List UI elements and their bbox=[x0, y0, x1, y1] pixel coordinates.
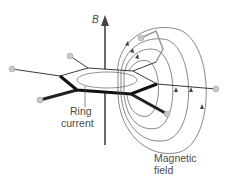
ring-current-label-line2: current bbox=[61, 117, 94, 129]
magnetic-field-label-line1: Magnetic bbox=[154, 152, 197, 164]
ring-current-diagram: B Ring current Magnetic field bbox=[0, 0, 227, 182]
b-axis-label: B bbox=[92, 14, 99, 26]
arrow-up-icon bbox=[101, 15, 109, 26]
ring-current-label-line1: Ring bbox=[70, 105, 92, 117]
magnetic-field-label-line2: field bbox=[154, 164, 173, 176]
